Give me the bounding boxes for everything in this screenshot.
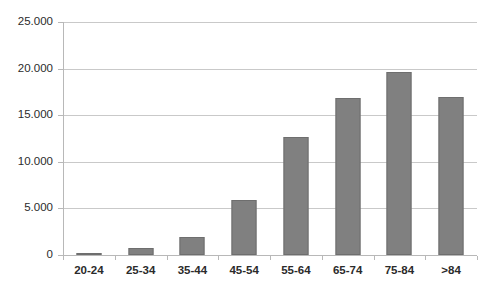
bar[interactable] bbox=[283, 137, 308, 255]
bar[interactable] bbox=[232, 200, 257, 255]
bar-slot bbox=[218, 22, 270, 255]
x-tick-label: 45-54 bbox=[229, 265, 258, 277]
x-tick-label: 55-64 bbox=[281, 265, 310, 277]
y-tick-label: 5.000 bbox=[0, 202, 53, 214]
bar-slot bbox=[167, 22, 219, 255]
bar[interactable] bbox=[439, 97, 464, 255]
x-tick-label: 75-84 bbox=[385, 265, 414, 277]
x-tick-mark bbox=[374, 256, 375, 260]
x-tick-label: >84 bbox=[441, 265, 461, 277]
x-tick-label: 20-24 bbox=[74, 265, 103, 277]
bar[interactable] bbox=[387, 72, 412, 255]
x-tick-mark bbox=[115, 256, 116, 260]
x-tick-label: 25-34 bbox=[126, 265, 155, 277]
x-tick-label: 35-44 bbox=[178, 265, 207, 277]
bar-slot bbox=[270, 22, 322, 255]
y-tick-label: 25.000 bbox=[0, 16, 53, 28]
bar[interactable] bbox=[335, 98, 360, 256]
y-tick-label: 20.000 bbox=[0, 63, 53, 75]
x-tick-mark bbox=[218, 256, 219, 260]
bar-slot bbox=[115, 22, 167, 255]
bar-slot bbox=[374, 22, 426, 255]
y-tick-label: 15.000 bbox=[0, 109, 53, 121]
x-tick-mark bbox=[167, 256, 168, 260]
bar-slot bbox=[322, 22, 374, 255]
y-tick-label: 0 bbox=[0, 249, 53, 261]
bar-chart: 25.000 20.000 15.000 10.000 5.000 0 20-2… bbox=[0, 0, 493, 290]
x-tick-mark bbox=[322, 256, 323, 260]
x-tick-mark bbox=[477, 256, 478, 260]
x-tick-mark bbox=[425, 256, 426, 260]
bar-slot bbox=[63, 22, 115, 255]
y-tick-label: 10.000 bbox=[0, 156, 53, 168]
bars-layer bbox=[63, 22, 477, 255]
x-tick-mark bbox=[270, 256, 271, 260]
bar[interactable] bbox=[180, 237, 205, 255]
x-tick-mark bbox=[63, 256, 64, 260]
bar-slot bbox=[425, 22, 477, 255]
x-tick-label: 65-74 bbox=[333, 265, 362, 277]
